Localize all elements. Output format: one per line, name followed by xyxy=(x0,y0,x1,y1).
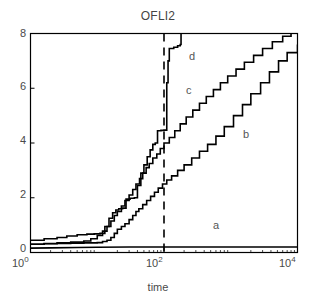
x-tick-label-1e4: 104 xyxy=(279,257,296,269)
x-tick-exponent: 4 xyxy=(291,255,295,264)
x-tick-label-1e0: 100 xyxy=(12,257,29,269)
y-tick-label-4: 4 xyxy=(4,134,26,146)
x-tick-exponent: 0 xyxy=(24,255,28,264)
series-label-c: c xyxy=(186,84,192,96)
x-tick-mantissa: 10 xyxy=(146,257,158,269)
x-axis-label: time xyxy=(0,281,316,293)
series-label-a: a xyxy=(213,219,219,231)
y-tick-label-2: 2 xyxy=(4,188,26,200)
chart-figure: OFLI2 8 6 4 2 0 100 102 104 time a b c d xyxy=(0,0,316,305)
series-line-d xyxy=(31,34,182,241)
series-line-c xyxy=(31,34,292,245)
x-tick-mantissa: 10 xyxy=(12,257,24,269)
series-label-d: d xyxy=(189,50,195,62)
x-tick-label-1e2: 102 xyxy=(146,257,163,269)
y-tick-label-0: 0 xyxy=(4,242,26,254)
y-tick-label-6: 6 xyxy=(4,80,26,92)
series-label-b: b xyxy=(243,128,249,140)
y-tick-label-8: 8 xyxy=(4,27,26,39)
x-tick-exponent: 2 xyxy=(158,255,162,264)
x-tick-mantissa: 10 xyxy=(279,257,291,269)
